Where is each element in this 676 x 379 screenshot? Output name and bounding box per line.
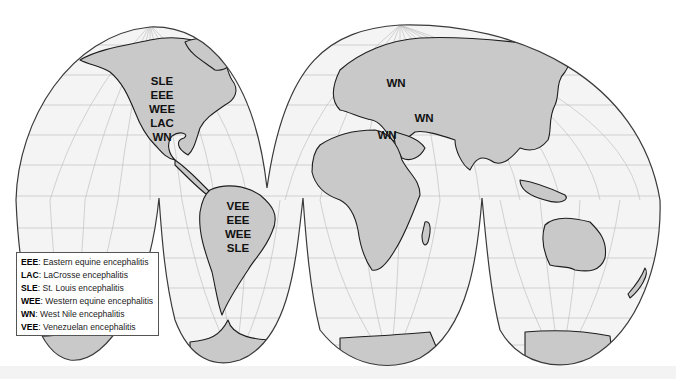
code-wn: WN [374,128,400,142]
north-africa-label: WN [374,128,400,142]
code-wee: WEE [220,227,256,241]
middle-east-label: WN [411,111,437,125]
code-wee: WEE [142,102,182,116]
legend-code: SLE [21,283,38,293]
legend-code: WN [21,309,35,319]
code-wn: WN [411,111,437,125]
legend-label: : West Nile encephalitis [35,309,124,319]
code-vee: VEE [220,199,256,213]
legend-item-sle: SLE: St. Louis encephalitis [21,282,158,295]
code-eee: EEE [142,88,182,102]
legend-item-eee: EEE: Eastern equine encephalitis [21,256,158,269]
legend-code: WEE [21,296,41,306]
legend-item-wn: WN: West Nile encephalitis [21,308,158,321]
bottom-band [0,366,676,379]
legend-label: : LaCrosse encephalitis [39,270,128,280]
code-eee: EEE [220,213,256,227]
legend: EEE: Eastern equine encephalitis LAC: La… [16,252,159,336]
code-wn: WN [383,76,409,90]
legend-label: : St. Louis encephalitis [38,283,124,293]
legend-label: : Eastern equine encephalitis [38,257,148,267]
legend-code: VEE [21,322,38,332]
legend-item-wee: WEE: Western equine encephalitis [21,295,158,308]
code-lac: LAC [142,116,182,130]
south-america-label: VEE EEE WEE SLE [220,199,256,255]
code-sle: SLE [220,241,256,255]
legend-code: EEE [21,257,38,267]
north-america-label: SLE EEE WEE LAC WN [142,74,182,144]
code-wn: WN [142,130,182,144]
legend-item-lac: LAC: LaCrosse encephalitis [21,269,158,282]
europe-label: WN [383,76,409,90]
legend-item-vee: VEE: Venezuelan encephalitis [21,321,158,334]
code-sle: SLE [142,74,182,88]
legend-code: LAC [21,270,39,280]
legend-label: : Venezuelan encephalitis [38,322,135,332]
legend-label: : Western equine encephalitis [41,296,154,306]
